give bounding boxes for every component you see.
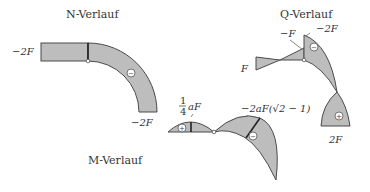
internal-force-diagrams: N-Verlauf −2F − −2F Q-Verlauf F −F −2F −… xyxy=(0,0,370,192)
n-joint xyxy=(86,59,90,63)
q-negative-lobe xyxy=(304,35,337,92)
q-left-triangle-lower xyxy=(256,57,280,70)
m-verlauf-diagram: M-Verlauf 1 4 aF −2aF(√2 − 1) + − xyxy=(88,95,310,180)
m-joint xyxy=(212,130,216,134)
q-upper-sign-text: − xyxy=(311,44,317,52)
n-verlauf-title: N-Verlauf xyxy=(66,8,119,21)
n-left-value: −2F xyxy=(12,46,35,57)
m-left-sign-text: + xyxy=(179,125,185,133)
n-curved-band xyxy=(88,43,157,112)
q-joint xyxy=(302,58,306,62)
q-left-value: F xyxy=(240,63,249,74)
q-top-right-value: −2F xyxy=(316,23,339,34)
m-leader-left xyxy=(191,114,193,117)
m-frac-denominator: 4 xyxy=(180,106,186,117)
n-sign-text: − xyxy=(128,70,134,78)
q-leader-right xyxy=(306,33,310,36)
m-negative-crescent xyxy=(214,116,277,180)
q-left-triangle-upper xyxy=(280,48,304,60)
q-verlauf-title: Q-Verlauf xyxy=(280,8,333,21)
q-positive-lobe xyxy=(321,92,350,126)
n-bottom-value: −2F xyxy=(131,117,154,128)
m-frac-numerator: 1 xyxy=(180,95,186,106)
q-leader-left xyxy=(290,40,303,50)
n-verlauf-diagram: N-Verlauf −2F − −2F xyxy=(12,8,157,128)
q-bottom-value: 2F xyxy=(328,134,343,145)
q-lower-sign-text: + xyxy=(336,113,342,121)
m-right-value: −2aF(√2 − 1) xyxy=(241,103,310,114)
n-straight-band xyxy=(41,43,88,61)
m-left-value: aF xyxy=(188,101,202,112)
m-verlauf-title: M-Verlauf xyxy=(88,154,143,167)
m-right-sign-text: − xyxy=(250,133,256,141)
q-top-left-value: −F xyxy=(280,28,296,39)
